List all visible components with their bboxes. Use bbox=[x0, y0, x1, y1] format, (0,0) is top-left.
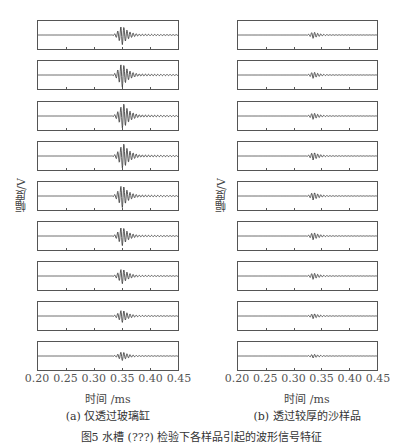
tick-mark bbox=[349, 47, 350, 49]
waveform-trace bbox=[238, 222, 377, 250]
tick-mark bbox=[150, 47, 151, 49]
tick-mark bbox=[321, 248, 322, 250]
tick-mark bbox=[122, 248, 123, 250]
tick-mark bbox=[122, 47, 123, 49]
waveform-trace bbox=[38, 102, 178, 130]
waveform-panel bbox=[237, 261, 378, 291]
tick-mark bbox=[349, 208, 350, 210]
tick-mark bbox=[66, 47, 67, 49]
waveform-trace bbox=[238, 182, 377, 210]
waveform-panel bbox=[237, 60, 378, 90]
tick-mark bbox=[266, 248, 267, 250]
waveform-panel bbox=[237, 20, 378, 50]
waveform-panel bbox=[37, 141, 179, 171]
tick-mark bbox=[94, 328, 95, 330]
tick-mark bbox=[94, 288, 95, 290]
x-axis-label-a: 时间 /ms bbox=[85, 390, 130, 406]
x-tick-label: 0.25 bbox=[253, 372, 278, 385]
waveform-trace bbox=[238, 61, 377, 89]
waveform-trace bbox=[38, 342, 178, 370]
tick-mark bbox=[266, 368, 267, 370]
tick-mark bbox=[349, 87, 350, 89]
waveform-panel bbox=[37, 20, 179, 50]
waveform-panel bbox=[37, 60, 179, 90]
tick-mark bbox=[150, 87, 151, 89]
tick-mark bbox=[66, 208, 67, 210]
waveform-panel bbox=[237, 101, 378, 131]
tick-mark bbox=[294, 128, 295, 130]
tick-mark bbox=[150, 128, 151, 130]
waveform-trace bbox=[38, 222, 178, 250]
tick-mark bbox=[66, 288, 67, 290]
tick-mark bbox=[266, 47, 267, 49]
y-axis-label-b: 幅度/V bbox=[214, 178, 230, 212]
tick-mark bbox=[122, 128, 123, 130]
tick-mark bbox=[66, 248, 67, 250]
waveform-panel bbox=[37, 301, 179, 331]
waveform-panel bbox=[237, 141, 378, 171]
tick-mark bbox=[321, 328, 322, 330]
waveform-trace bbox=[38, 302, 178, 330]
tick-mark bbox=[266, 87, 267, 89]
tick-mark bbox=[294, 368, 295, 370]
waveform-panel bbox=[237, 181, 378, 211]
tick-mark bbox=[150, 208, 151, 210]
x-tick-label: 0.20 bbox=[225, 372, 250, 385]
waveform-panel bbox=[237, 221, 378, 251]
x-tick-label: 0.20 bbox=[25, 372, 50, 385]
tick-mark bbox=[94, 248, 95, 250]
tick-mark bbox=[94, 47, 95, 49]
waveform-trace bbox=[238, 342, 377, 370]
tick-mark bbox=[321, 47, 322, 49]
waveform-panel bbox=[37, 341, 179, 371]
tick-mark bbox=[349, 288, 350, 290]
tick-mark bbox=[294, 47, 295, 49]
tick-mark bbox=[266, 128, 267, 130]
tick-mark bbox=[294, 248, 295, 250]
tick-mark bbox=[122, 168, 123, 170]
tick-mark bbox=[150, 368, 151, 370]
x-tick-label: 0.45 bbox=[366, 372, 391, 385]
tick-mark bbox=[150, 248, 151, 250]
waveform-panel bbox=[37, 181, 179, 211]
tick-mark bbox=[66, 368, 67, 370]
tick-mark bbox=[94, 87, 95, 89]
tick-mark bbox=[294, 168, 295, 170]
figure-caption: 图5 水槽 (???) 检验下各样品引起的波形信号特征 bbox=[81, 428, 323, 444]
waveform-panel bbox=[237, 341, 378, 371]
tick-mark bbox=[66, 128, 67, 130]
tick-mark bbox=[66, 328, 67, 330]
tick-mark bbox=[122, 368, 123, 370]
tick-mark bbox=[321, 208, 322, 210]
x-tick-label: 0.40 bbox=[138, 372, 163, 385]
tick-mark bbox=[321, 368, 322, 370]
tick-mark bbox=[349, 168, 350, 170]
tick-mark bbox=[94, 368, 95, 370]
tick-mark bbox=[349, 368, 350, 370]
subcaption-a: (a) 仅透过玻璃缸 bbox=[66, 407, 151, 423]
subcaption-b: (b) 透过较厚的沙样品 bbox=[253, 407, 360, 423]
tick-mark bbox=[321, 288, 322, 290]
tick-mark bbox=[66, 168, 67, 170]
waveform-panel bbox=[237, 301, 378, 331]
tick-mark bbox=[122, 328, 123, 330]
tick-mark bbox=[321, 128, 322, 130]
waveform-panel bbox=[37, 221, 179, 251]
tick-mark bbox=[66, 87, 67, 89]
x-tick-label: 0.40 bbox=[338, 372, 363, 385]
x-tick-label: 0.25 bbox=[53, 372, 78, 385]
x-tick-label: 0.35 bbox=[110, 372, 135, 385]
waveform-trace bbox=[238, 102, 377, 130]
tick-mark bbox=[150, 328, 151, 330]
tick-mark bbox=[266, 288, 267, 290]
tick-mark bbox=[150, 168, 151, 170]
waveform-trace bbox=[238, 142, 377, 170]
waveform-panel bbox=[37, 101, 179, 131]
waveform-panel bbox=[37, 261, 179, 291]
waveform-trace bbox=[38, 61, 178, 89]
tick-mark bbox=[150, 288, 151, 290]
tick-mark bbox=[294, 208, 295, 210]
x-axis-label-b: 时间 /ms bbox=[284, 390, 329, 406]
waveform-trace bbox=[238, 302, 377, 330]
waveform-trace bbox=[238, 21, 377, 49]
